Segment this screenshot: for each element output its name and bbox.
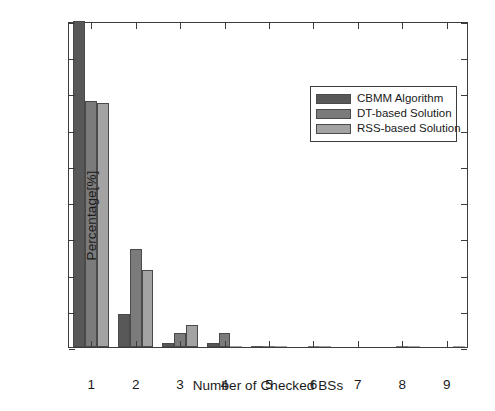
x-tick-top [91,23,92,29]
legend-swatch-dt [316,109,351,119]
bar [453,346,465,347]
legend: CBMM Algorithm DT-based Solution RSS-bas… [310,86,457,142]
y-tick-right [461,168,467,169]
y-tick [69,277,75,278]
x-tick [91,341,92,347]
legend-item: RSS-based Solution [316,122,451,136]
y-tick [69,95,75,96]
bar [97,103,109,347]
y-tick-right [461,240,467,241]
bar [186,325,198,347]
x-axis-title: Number of Checked BSs [68,378,468,393]
legend-item: CBMM Algorithm [316,92,451,106]
y-tick [69,313,75,314]
bar [230,346,242,347]
bar [275,346,287,347]
y-tick [69,240,75,241]
x-tick [447,341,448,347]
bar [162,343,174,347]
x-tick-top [136,23,137,29]
y-tick [69,59,75,60]
bar [118,314,130,347]
legend-item: DT-based Solution [316,107,451,121]
figure-canvas: 0102030405060708090 123456789 Percentage… [0,0,495,411]
y-axis-title: Percentage[%] [84,131,99,301]
legend-label-dt: DT-based Solution [357,108,452,120]
y-tick-right [461,204,467,205]
y-tick-right [461,59,467,60]
y-tick-right [461,23,467,24]
x-tick-top [313,23,314,29]
y-tick-right [461,313,467,314]
y-tick [69,132,75,133]
bars-layer [69,23,467,347]
legend-label-rss: RSS-based Solution [357,123,461,135]
y-tick-right [461,132,467,133]
x-tick-top [447,23,448,29]
x-tick-top [402,23,403,29]
y-tick [69,349,75,350]
x-tick [313,341,314,347]
x-tick [136,341,137,347]
x-tick [358,341,359,347]
bar [251,346,263,347]
x-tick-top [358,23,359,29]
x-tick [225,341,226,347]
legend-swatch-cbmm [316,94,351,104]
bar [207,343,219,347]
y-tick-right [461,277,467,278]
bar [408,346,420,347]
legend-label-cbmm: CBMM Algorithm [357,93,443,105]
y-tick [69,23,75,24]
x-tick-top [269,23,270,29]
x-tick [269,341,270,347]
x-tick-top [180,23,181,29]
bar [130,249,142,347]
x-tick [402,341,403,347]
y-tick-right [461,95,467,96]
x-tick [180,341,181,347]
bar [319,346,331,347]
legend-swatch-rss [316,124,351,134]
y-tick [69,168,75,169]
x-tick-top [225,23,226,29]
plot-area: 0102030405060708090 123456789 Percentage… [68,22,468,348]
y-tick-right [461,349,467,350]
y-tick [69,204,75,205]
bar [142,270,154,347]
